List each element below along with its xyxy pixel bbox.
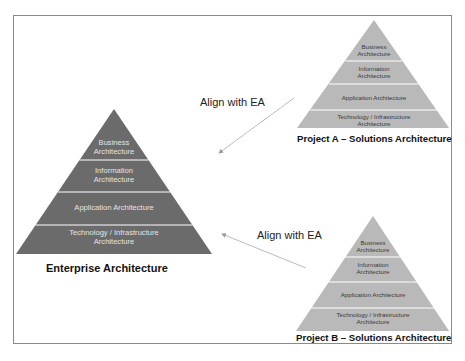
pb-layer-business-line2: Architecture	[343, 246, 403, 253]
pa-layer-business: Business Architecture	[344, 43, 404, 57]
pa-layer-information-line2: Architecture	[334, 72, 414, 79]
ea-layer-information-line2: Architecture	[60, 176, 168, 185]
ea-layer-business: Business Architecture	[74, 139, 154, 156]
pb-layer-business-line1: Business	[343, 239, 403, 246]
pa-layer-application-line1: Application Architecture	[320, 94, 428, 101]
enterprise-caption: Enterprise Architecture	[46, 262, 168, 274]
pa-layer-technology-line1: Technology / Infrastructure	[312, 113, 436, 120]
pb-layer-information-line1: Information	[333, 261, 413, 268]
project-a-caption: Project A – Solutions Architecture	[297, 133, 452, 144]
pa-layer-information: Information Architecture	[334, 65, 414, 79]
pa-layer-business-line2: Architecture	[344, 50, 404, 57]
ea-layer-business-line2: Architecture	[74, 148, 154, 157]
ea-layer-technology-line2: Architecture	[30, 238, 198, 247]
ea-layer-information: Information Architecture	[60, 167, 168, 184]
pa-layer-application: Application Architecture	[320, 94, 428, 101]
pb-layer-business: Business Architecture	[343, 239, 403, 253]
ea-layer-application: Application Architecture	[40, 204, 188, 213]
project-b-caption: Project B – Solutions Architecture	[296, 332, 451, 343]
pa-layer-business-line1: Business	[344, 43, 404, 50]
pa-layer-information-line1: Information	[334, 65, 414, 72]
ea-layer-application-line1: Application Architecture	[40, 204, 188, 213]
align-label-a: Align with EA	[200, 96, 265, 108]
pb-layer-technology-line2: Architecture	[311, 318, 435, 325]
align-label-b: Align with EA	[257, 229, 322, 241]
pb-layer-application-line1: Application Architecture	[319, 291, 427, 298]
pa-layer-technology: Technology / Infrastructure Architecture	[312, 113, 436, 127]
pb-layer-technology: Technology / Infrastructure Architecture	[311, 311, 435, 325]
pb-layer-information: Information Architecture	[333, 261, 413, 275]
pb-layer-application: Application Architecture	[319, 291, 427, 298]
ea-layer-technology: Technology / Infrastructure Architecture	[30, 229, 198, 246]
pb-layer-information-line2: Architecture	[333, 268, 413, 275]
pb-layer-technology-line1: Technology / Infrastructure	[311, 311, 435, 318]
pa-layer-technology-line2: Architecture	[312, 120, 436, 127]
